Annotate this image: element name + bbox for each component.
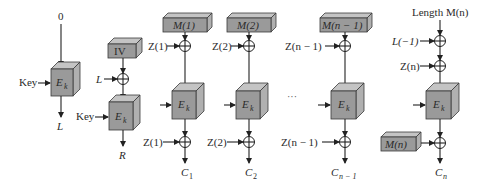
cipher-box-ek: E k: [172, 83, 204, 119]
message-block-mn: M(n): [381, 132, 421, 151]
cipher-subscript: k: [346, 104, 350, 113]
length-input-label: Length M(n): [412, 6, 469, 19]
key-setup-column: 0 E k Key L: [19, 10, 80, 132]
iv-setup-column: IV L E k Key R: [76, 38, 142, 161]
l-xor-input-label: L: [95, 73, 102, 85]
cipher-label: E: [177, 98, 185, 110]
diagram-canvas: 0 E k Key L IV L: [0, 0, 484, 193]
zn-label: Z(n): [400, 60, 420, 73]
xor-l-iv: [118, 74, 129, 85]
xor-pre: [244, 41, 255, 52]
ciphertext-label: C: [435, 166, 443, 178]
block-label: M(n): [384, 138, 407, 151]
ciphertext-subscript: 2: [253, 172, 257, 181]
z-pre-label: Z(1): [148, 40, 168, 53]
l-output-label: L: [56, 120, 63, 132]
xor-post: [340, 137, 351, 148]
block-n-column: Length M(n) L(−1) Z(n) E k: [381, 6, 469, 181]
cipher-box-ek: E k: [331, 83, 364, 119]
l-minus-1-label: L(−1): [391, 35, 419, 48]
cipher-subscript: k: [441, 104, 445, 113]
ciphertext-subscript: n: [443, 172, 447, 181]
xor-pre: [180, 41, 191, 52]
cipher-box-ek: E k: [426, 83, 459, 119]
block-1-column: M(1) Z(1) E k Z(1) C 1: [143, 13, 212, 181]
iv-block: IV: [108, 38, 142, 58]
z-pre-label: Z(n − 1): [285, 40, 322, 53]
xor-post: [180, 137, 191, 148]
xor-post: [244, 137, 255, 148]
ciphertext-label: C: [331, 166, 339, 178]
cipher-label: E: [241, 98, 249, 110]
block-label: M(n − 1): [321, 19, 363, 32]
z-pre-label: Z(2): [212, 40, 232, 53]
iv-label: IV: [114, 45, 126, 57]
xor-pre: [340, 41, 351, 52]
key-label: Key: [76, 110, 95, 122]
message-block-m1: M(1): [163, 13, 212, 32]
cipher-subscript: k: [64, 82, 68, 91]
ciphertext-subscript: 1: [189, 172, 193, 181]
z-post-label: Z(n − 1): [281, 136, 318, 149]
zero-input-label: 0: [58, 10, 64, 22]
ciphertext-subscript: n − 1: [339, 172, 356, 181]
r-output-label: R: [118, 149, 126, 161]
xor-l-minus-1: [435, 36, 446, 47]
cipher-label: E: [114, 110, 122, 122]
cipher-subscript: k: [250, 104, 254, 113]
cipher-subscript: k: [186, 104, 190, 113]
message-block-mn-1: M(n − 1): [320, 13, 372, 32]
cipher-box-ek: E k: [236, 83, 268, 119]
cipher-box-ek: E k: [51, 62, 80, 96]
block-label: M(1): [172, 19, 195, 32]
cipher-label: E: [337, 98, 345, 110]
cipher-box-ek: E k: [109, 95, 140, 130]
cipher-subscript: k: [123, 116, 127, 125]
ciphertext-label: C: [181, 166, 189, 178]
cipher-label: E: [55, 76, 63, 88]
xor-post: [435, 138, 446, 149]
z-post-label: Z(1): [143, 136, 163, 149]
xor-zn: [435, 61, 446, 72]
key-label: Key: [19, 76, 38, 88]
block-label: M(2): [236, 19, 259, 32]
ellipsis: ···: [287, 91, 297, 102]
z-post-label: Z(2): [207, 136, 227, 149]
ciphertext-label: C: [245, 166, 253, 178]
block-2-column: M(2) Z(2) E k Z(2) C 2: [207, 13, 276, 181]
cipher-label: E: [432, 98, 440, 110]
message-block-m2: M(2): [227, 13, 276, 32]
